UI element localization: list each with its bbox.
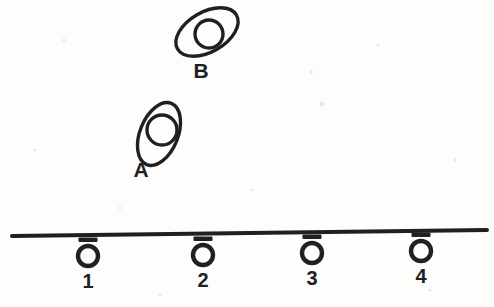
ring-2-label: 2 (197, 269, 208, 291)
ring-4-label: 4 (415, 265, 427, 287)
ring-3-label: 3 (306, 267, 317, 289)
ring-4-circle (411, 241, 431, 261)
ellipse-b-inner-circle (195, 20, 223, 48)
ellipse-b-outer (168, 0, 247, 66)
ring-2-circle (193, 245, 213, 265)
ring-group-2: 2 (193, 237, 213, 292)
figure-canvas: B A 1 2 3 (0, 0, 494, 307)
ellipse-a-inner-circle (147, 115, 177, 145)
ellipse-figure-a: A (129, 96, 189, 181)
line-drawing: B A 1 2 3 (0, 0, 494, 307)
ring-group-3: 3 (302, 235, 322, 290)
ellipse-a-label: A (133, 158, 148, 181)
ring-3-circle (302, 243, 322, 263)
ring-1-label: 1 (82, 270, 93, 292)
ring-4-bar (412, 233, 431, 238)
ring-1-circle (78, 246, 98, 266)
ring-group-4: 4 (411, 233, 431, 288)
ellipse-b-label: B (193, 59, 208, 82)
ring-2-bar (194, 237, 213, 242)
ring-1-bar (79, 238, 98, 243)
ring-3-bar (303, 235, 322, 240)
ellipse-figure-b: B (168, 0, 247, 82)
ring-group-1: 1 (78, 238, 98, 293)
